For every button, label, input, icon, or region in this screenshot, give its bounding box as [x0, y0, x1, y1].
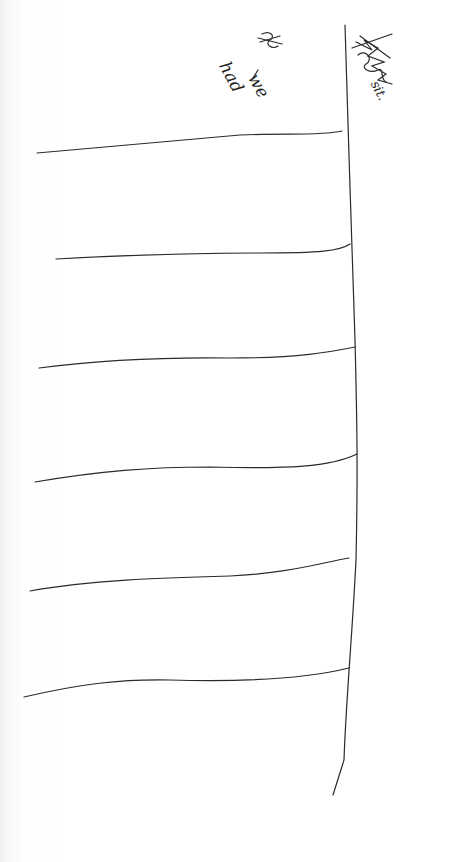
row-line-2 — [56, 244, 350, 259]
vertical-divider-line — [333, 25, 357, 795]
row-line-6 — [24, 668, 349, 697]
row-line-3 — [39, 347, 355, 368]
row-line-4 — [35, 454, 357, 482]
row-line-5 — [30, 558, 349, 591]
row-line-1 — [37, 131, 342, 153]
crossed-out-dollar — [258, 33, 282, 48]
scribbled-word — [352, 34, 392, 84]
hand-drawn-table — [0, 0, 473, 862]
handwritten-page: we had sit. — [0, 0, 473, 862]
